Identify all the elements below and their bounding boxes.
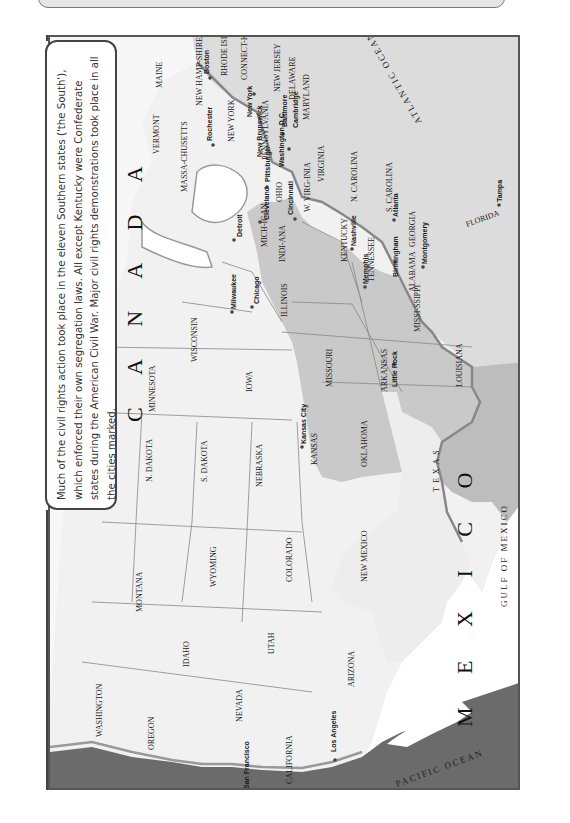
state-wisconsin: WISCONSIN [190, 317, 199, 362]
state-rhode-island: RHODE ISLAND [220, 37, 229, 76]
state-california: CALIFORNIA [285, 735, 294, 784]
state-new-york: NEW YORK [227, 99, 236, 142]
state-wyoming: WYOMING [209, 546, 218, 587]
state-arkansas: ARKANSAS [380, 349, 389, 392]
state-south-dakota: S. DAKOTA [200, 440, 209, 482]
info-box-leader-top [46, 35, 48, 41]
label-gulf-of-mexico: GULF OF MEXICO [499, 504, 509, 607]
city-detroit: Detroit [236, 214, 243, 237]
state-mississippi: MISSI-SSIPPI [413, 285, 422, 332]
state-oregon: OREGON [147, 716, 156, 750]
state-montana: MONTANA [135, 572, 144, 612]
city-memphis: Memphis [362, 254, 370, 284]
state-maryland: MARYLAND [302, 74, 311, 120]
city-los-angeles: Los Angeles [330, 711, 338, 752]
city-nashville: Nashville [350, 215, 357, 246]
state-georgia: GEORGIA [408, 211, 417, 247]
city-pittsburgh: Pittsburgh [264, 147, 272, 182]
state-west-virginia: W. VIRG-INIA [303, 162, 312, 212]
state-vermont: VERMONT [152, 114, 161, 154]
info-callout-box: Much of the civil rights action took pla… [45, 40, 117, 510]
info-callout-text: Much of the civil rights action took pla… [51, 48, 119, 508]
chapter-header-bar [38, 0, 505, 8]
state-ohio: OHIO [275, 182, 284, 202]
state-iowa: IOWA [245, 371, 254, 392]
state-new-mexico: NEW MEXICO [360, 530, 369, 582]
state-connecticut: CONNECT-ICUT [240, 37, 249, 80]
city-new-york: New York [246, 86, 253, 117]
city-san-francisco: San Francisco [243, 741, 250, 789]
city-washington-dc: Washington D.C. [278, 111, 286, 167]
city-milwaukee: Milwaukee [230, 274, 237, 309]
state-idaho: IDAHO [182, 641, 191, 667]
city-cambridge: Cambridge [292, 91, 300, 128]
city-tampa: Tampa [496, 180, 504, 202]
city-little-rock: Little Rock [391, 351, 398, 387]
city-boston: Boston [203, 50, 210, 74]
state-louisiana: LOUISIANA [455, 343, 464, 387]
label-canada: C A N A D A [122, 152, 147, 422]
city-kansas-city: Kansas City [300, 404, 308, 444]
state-indiana: INDI-ANA [278, 225, 287, 262]
info-box-leader-bottom [46, 510, 48, 790]
state-north-dakota: N. DAKOTA [145, 439, 154, 482]
city-atlanta: Atlanta [392, 193, 399, 217]
state-nevada: NEVADA [235, 689, 244, 722]
state-oklahoma: OKLAHOMA [360, 420, 369, 467]
city-chicago: Chicago [253, 276, 261, 304]
state-maine: MAINE [155, 62, 164, 88]
state-arizona: ARIZONA [347, 651, 356, 687]
city-cincinnati: Cincinnati [287, 181, 294, 215]
state-missouri: MISSOURI [325, 348, 334, 387]
city-cleveland: Cleveland [263, 187, 270, 220]
state-texas: TEXAS [432, 446, 441, 492]
state-illinois: ILLINOIS [280, 283, 289, 317]
city-rochester: Rochester [206, 106, 213, 141]
state-nebraska: NEBRASKA [255, 444, 264, 487]
state-kentucky: KENTUCKY [340, 218, 349, 262]
city-new-brunswick: New Brunswick [256, 105, 263, 157]
city-birmingham: Birmingham [392, 236, 400, 277]
state-kansas: KANSAS [310, 433, 319, 465]
state-washington: WASHINGTON [95, 684, 104, 737]
state-north-carolina: N. CAROLINA [350, 151, 359, 202]
us-map: C A N A D A M E X I C O ATLANTIC OCEAN P… [50, 37, 520, 790]
state-colorado: COLORADO [285, 537, 294, 582]
state-massachusetts: MASSA-CHUSETTS [180, 121, 189, 192]
state-utah: UTAH [267, 632, 276, 654]
state-new-jersey: NEW JERSEY [273, 43, 282, 92]
state-virginia: VIRGINIA [317, 145, 326, 182]
label-mexico: M E X I C O [452, 459, 477, 727]
city-montgomery: Montgomery [421, 222, 429, 264]
state-minnesota: MINNESOTA [148, 365, 157, 412]
